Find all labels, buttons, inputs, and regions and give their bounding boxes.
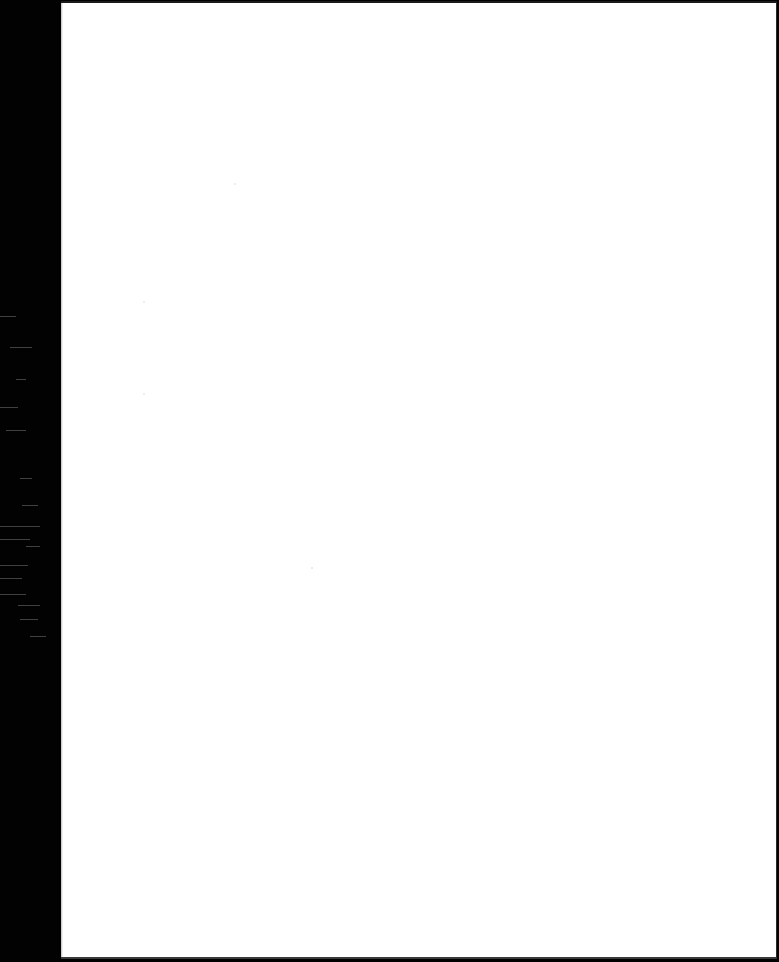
scan-noise [0,578,22,579]
scan-noise [6,430,26,431]
scan-noise [10,347,32,348]
scanner-margin [0,0,61,962]
scanned-document [0,0,779,962]
scan-speck [234,183,236,185]
scan-noise [0,539,30,540]
blank-page [61,1,777,959]
scan-noise [0,407,18,408]
scan-noise [0,594,26,595]
scan-noise [20,478,32,479]
scan-speck [311,567,313,569]
scan-noise [0,565,28,566]
scan-noise [30,636,46,637]
scan-speck [143,393,145,395]
scan-noise [20,619,38,620]
scan-speck [143,301,145,303]
scan-noise [22,505,38,506]
page-edge-shadow [61,3,63,957]
scan-noise [26,546,40,547]
scan-noise [16,379,26,380]
scan-noise [0,316,16,317]
scan-noise [18,605,40,606]
scan-noise [0,526,40,527]
